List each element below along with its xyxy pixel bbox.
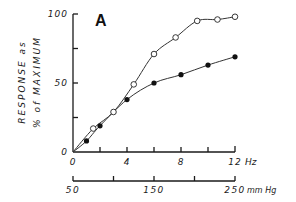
x-axis-unit-label: Hz <box>245 157 257 167</box>
open-circle-point <box>111 109 117 115</box>
pressure-tick-label: 250 <box>224 185 246 195</box>
filled-circle-point <box>178 72 183 77</box>
filled-circle-point <box>124 97 129 102</box>
pressure-unit-label: mm Hg <box>247 186 276 195</box>
y-tick-label: 100 <box>48 9 68 19</box>
y-tick-label: 0 <box>61 147 68 157</box>
open-circle-point <box>90 126 96 132</box>
filled-circle-point <box>205 62 210 67</box>
fit-curve <box>73 57 235 152</box>
filled-circle-point <box>232 54 237 59</box>
open-circle-point <box>194 18 200 24</box>
y-tick-label: 50 <box>55 78 68 88</box>
open-circle-point <box>232 14 238 20</box>
open-circle-point <box>215 17 221 23</box>
open-circle-point <box>173 35 179 41</box>
filled-circle-point <box>84 138 89 143</box>
chart: 04812Hz05010050150250mm HgRESPONSE as% o… <box>0 0 296 202</box>
data-points <box>84 14 238 144</box>
axis-labels: 04812Hz05010050150250mm HgRESPONSE as% o… <box>17 9 276 195</box>
pressure-tick-label: 150 <box>143 185 165 195</box>
open-circle-point <box>131 82 137 88</box>
x-tick-label: 12 <box>228 157 241 167</box>
x-tick-label: 8 <box>178 157 185 167</box>
filled-circle-point <box>97 123 102 128</box>
filled-circle-point <box>151 80 156 85</box>
open-circle-point <box>151 51 157 57</box>
y-axis-label-line1: RESPONSE as <box>17 40 27 123</box>
y-axis-label-line2: % of MAXIMUM <box>32 36 42 128</box>
axes <box>73 14 235 181</box>
x-tick-label: 0 <box>70 157 77 167</box>
panel-label: A <box>95 12 107 29</box>
x-tick-label: 4 <box>124 157 131 167</box>
pressure-tick-label: 50 <box>66 185 80 195</box>
